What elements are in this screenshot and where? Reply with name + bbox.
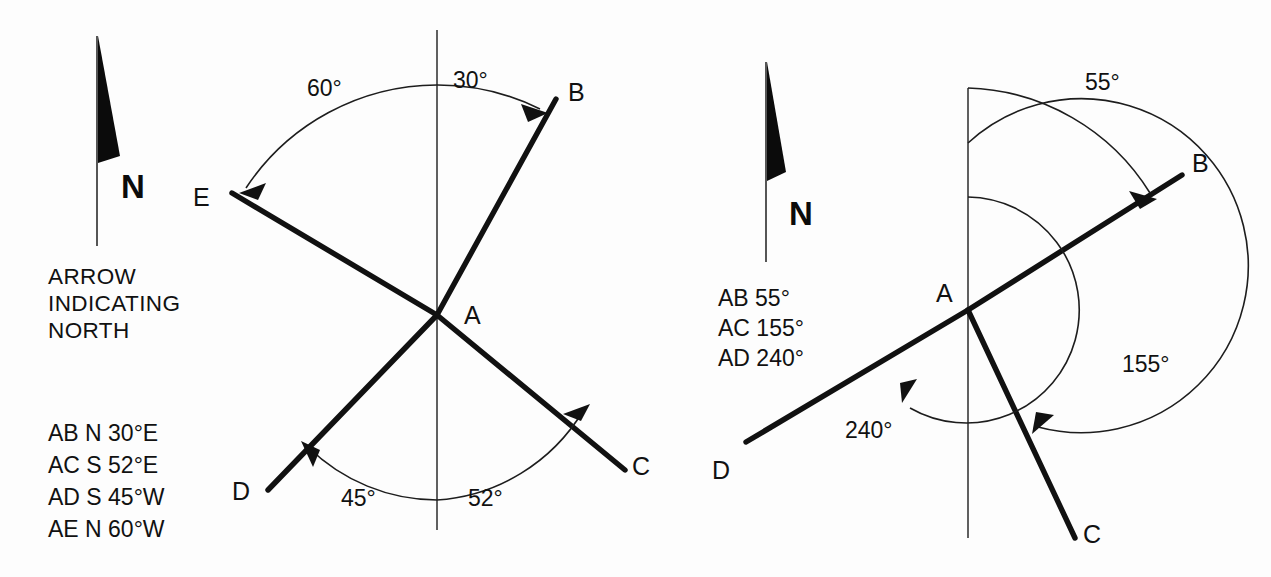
- bearing-diagram-figure: N ARROW INDICATING NORTH AB N 30°E AC S …: [0, 0, 1271, 577]
- legend-right-item-0: AB 55°: [718, 285, 790, 311]
- arrowhead-240-degrees: [900, 379, 917, 403]
- legend-left-item-3: AE N 60°W: [48, 516, 165, 542]
- left-diagram-group: N ARROW INDICATING NORTH AB N 30°E AC S …: [48, 30, 650, 542]
- ray-ad-left: [268, 315, 437, 490]
- angle-label-45: 45°: [341, 485, 376, 511]
- north-letter-right: N: [789, 195, 813, 232]
- point-label-b-right: B: [1192, 149, 1209, 177]
- angle-label-52: 52°: [468, 485, 503, 511]
- caption-line-2: INDICATING: [48, 291, 180, 316]
- point-label-b-left: B: [568, 78, 585, 106]
- north-flag-pennant-right: [767, 62, 786, 181]
- ray-ae-left: [232, 193, 437, 315]
- north-letter-left: N: [121, 168, 145, 205]
- point-label-a-right: A: [936, 279, 953, 307]
- arc-52-degrees: [437, 411, 583, 500]
- ray-ac-left: [437, 315, 625, 470]
- ray-ac-right: [968, 310, 1075, 538]
- angle-label-55: 55°: [1085, 69, 1120, 95]
- north-arrow-flag-icon: [97, 36, 120, 246]
- caption-line-3: NORTH: [48, 318, 130, 343]
- point-label-a-left: A: [464, 301, 481, 329]
- diagram-canvas: N ARROW INDICATING NORTH AB N 30°E AC S …: [0, 0, 1271, 577]
- point-label-c-left: C: [632, 452, 650, 480]
- angle-label-60: 60°: [307, 75, 342, 101]
- arc-240-degrees: [910, 197, 1079, 423]
- legend-left-item-2: AD S 45°W: [48, 484, 165, 510]
- legend-left-item-0: AB N 30°E: [48, 420, 158, 446]
- point-label-d-left: D: [232, 477, 250, 505]
- north-flag-pennant: [98, 36, 120, 163]
- point-label-c-right: C: [1083, 520, 1101, 548]
- right-diagram-group: N AB 55° AC 155° AD 240° A B C D: [712, 62, 1248, 548]
- ray-ab-left: [437, 99, 556, 315]
- point-label-e-left: E: [193, 183, 210, 211]
- legend-left-item-1: AC S 52°E: [48, 452, 158, 478]
- legend-right-item-2: AD 240°: [718, 345, 804, 371]
- angle-label-30: 30°: [453, 67, 488, 93]
- point-label-d-right: D: [712, 456, 730, 484]
- caption-line-1: ARROW: [48, 264, 137, 289]
- legend-right-item-1: AC 155°: [718, 315, 804, 341]
- angle-label-240: 240°: [845, 417, 893, 443]
- north-arrow-flag-icon-right: [766, 62, 786, 262]
- ray-ab-right: [968, 175, 1182, 310]
- arrowhead-52-degrees: [563, 404, 590, 421]
- angle-label-155: 155°: [1122, 351, 1170, 377]
